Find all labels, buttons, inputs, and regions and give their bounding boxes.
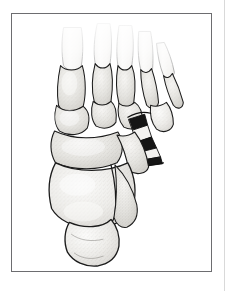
third-metatarsal: [117, 66, 136, 108]
page-background: [0, 0, 229, 291]
third-toe: [117, 26, 133, 70]
first-toe: [62, 28, 83, 70]
fourth-metatarsal: [141, 69, 159, 109]
figure-frame: [11, 13, 212, 272]
navicular: [51, 131, 122, 169]
second-metatarsal: [92, 64, 112, 106]
intermediate-cuneiform: [92, 101, 117, 128]
second-toe: [94, 24, 111, 68]
fourth-toe: [138, 32, 153, 73]
calcaneus: [65, 219, 119, 266]
first-metatarsal: [58, 66, 86, 113]
fifth-toe: [157, 43, 175, 78]
illustration-body: [49, 24, 183, 266]
foot-skeleton-illustration: [12, 14, 211, 271]
page-edge-line: [224, 0, 225, 291]
